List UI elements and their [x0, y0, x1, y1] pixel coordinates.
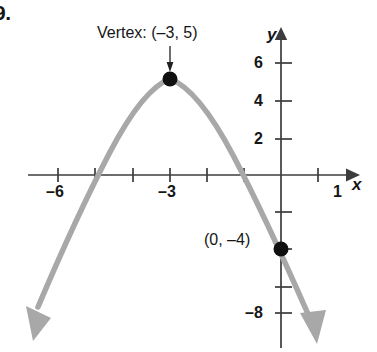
x-tick-label-minus3: –3 — [158, 184, 176, 200]
point-annotation-label: (0, –4) — [204, 232, 250, 248]
vertex-annotation-label: Vertex: (–3, 5) — [97, 25, 198, 41]
y-tick-label-2: 2 — [254, 131, 263, 147]
vertex-point — [163, 72, 178, 87]
y-axis-label: y — [267, 26, 276, 43]
y-intercept-point — [274, 242, 289, 257]
y-axis — [275, 27, 287, 348]
x-tick-label-minus6: –6 — [46, 184, 64, 200]
x-axis — [28, 169, 360, 182]
figure-container: 9. Vertex: (–3, 5) (0, –4) y x –6 –3 1 6… — [0, 0, 377, 352]
y-tick-label-6: 6 — [254, 55, 263, 71]
curve-right-arrowhead — [300, 310, 326, 344]
y-tick-label-minus8: –8 — [245, 305, 263, 321]
curve-left-arrowhead — [26, 306, 51, 341]
x-axis-label: x — [352, 176, 361, 193]
parabola-graph — [0, 0, 377, 352]
vertex-leader-arrow — [167, 46, 174, 72]
x-tick-label-1: 1 — [333, 184, 342, 200]
y-tick-label-4: 4 — [254, 93, 263, 109]
item-number: 9. — [0, 2, 11, 23]
